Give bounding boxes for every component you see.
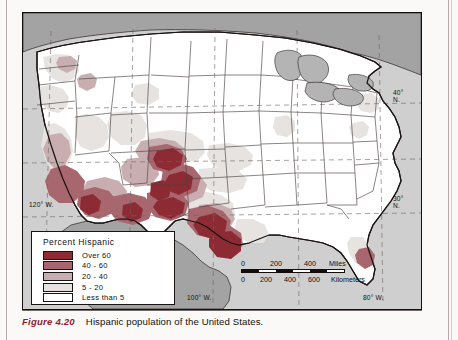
- caption-rule: [22, 310, 422, 311]
- legend-row-less-than-5: Less than 5: [43, 292, 125, 303]
- graticule-label-80w: 80° W.: [363, 294, 384, 301]
- page-edge-rule-right-outer: [451, 0, 452, 340]
- figure-page: 120° W. 40° N. 30° N. 100° W. 80° W. Per…: [0, 0, 458, 340]
- legend-row-20-40: 20 - 40: [43, 271, 125, 282]
- legend-label-20-40: 20 - 40: [82, 272, 108, 281]
- scale-miles-tick-0: 0: [241, 259, 245, 268]
- scale-km-ticks: 0 200 400 600 Kilometers: [241, 275, 361, 284]
- figure-caption: Figure 4.20Hispanic population of the Un…: [22, 316, 422, 327]
- map-plate: 120° W. 40° N. 30° N. 100° W. 80° W. Per…: [22, 12, 422, 310]
- legend-label-40-60: 40 - 60: [82, 261, 108, 270]
- map-canvas: 120° W. 40° N. 30° N. 100° W. 80° W. Per…: [23, 13, 421, 309]
- legend-label-over-60: Over 60: [82, 251, 111, 260]
- scale-miles-tick-400: 400: [304, 259, 316, 268]
- graticule-label-30n: 30° N.: [393, 195, 404, 210]
- figure-caption-text: Hispanic population of the United States…: [86, 316, 263, 327]
- map-legend: Percent Hispanic Over 60 40 - 60 20 - 40: [31, 231, 175, 305]
- legend-class-list: Over 60 40 - 60 20 - 40 5 - 20: [43, 250, 125, 303]
- scale-miles-unit: Miles: [329, 259, 346, 268]
- legend-row-40-60: 40 - 60: [43, 261, 125, 272]
- legend-label-less-than-5: Less than 5: [82, 293, 125, 302]
- figure-number: Figure 4.20: [22, 316, 75, 327]
- graticule-label-100w: 100° W.: [187, 294, 212, 301]
- scale-km-tick-400: 400: [284, 275, 296, 284]
- scale-seg-2: [276, 270, 293, 272]
- graticule-label-120w: 120° W.: [29, 201, 54, 208]
- legend-title: Percent Hispanic: [43, 237, 114, 247]
- page-edge-rule-right: [448, 0, 449, 340]
- scale-miles-ticks: 0 200 400 Miles: [241, 259, 361, 268]
- graticule-label-40n: 40° N.: [393, 89, 404, 104]
- scale-miles-tick-200: 200: [270, 259, 282, 268]
- legend-label-5-20: 5 - 20: [82, 283, 103, 292]
- scale-seg-1: [242, 270, 259, 272]
- page-edge-rule-left: [6, 0, 7, 340]
- legend-swatch-5-20: [43, 283, 73, 292]
- scale-km-tick-200: 200: [260, 275, 272, 284]
- scale-seg-3: [310, 270, 327, 272]
- map-scale-bar: 0 200 400 Miles 0 200 400 600 Kilometers: [241, 259, 361, 293]
- legend-swatch-40-60: [43, 261, 73, 270]
- legend-swatch-20-40: [43, 272, 73, 281]
- scale-km-tick-0: 0: [241, 275, 245, 284]
- legend-swatch-less-than-5: [43, 293, 73, 302]
- legend-row-over-60: Over 60: [43, 250, 125, 261]
- scale-km-unit: Kilometers: [331, 275, 365, 284]
- legend-swatch-over-60: [43, 251, 73, 260]
- scale-km-tick-600: 600: [308, 275, 320, 284]
- legend-row-5-20: 5 - 20: [43, 282, 125, 293]
- scale-bar-graphic: [241, 269, 345, 273]
